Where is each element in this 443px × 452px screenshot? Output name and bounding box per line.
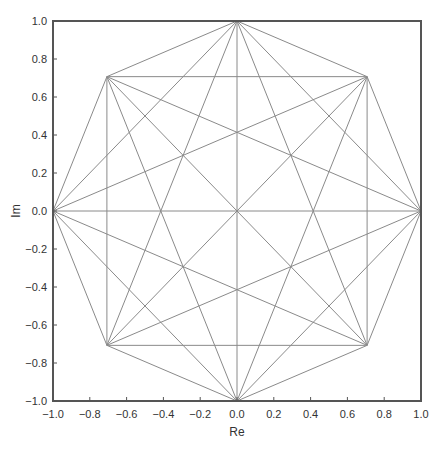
y-tick-label: 0.4 xyxy=(32,129,47,141)
chord-line xyxy=(107,211,421,345)
chord-line xyxy=(237,345,367,401)
y-tick-label: 0.8 xyxy=(32,53,47,65)
chart: −1.0−0.8−0.6−0.4−0.20.00.20.40.60.81.0 1… xyxy=(0,0,443,452)
chord-line xyxy=(107,21,237,77)
y-tick-label: −0.4 xyxy=(25,281,47,293)
y-axis-label: Im xyxy=(9,204,23,217)
chord-line xyxy=(107,77,237,401)
y-tick-label: 0.0 xyxy=(32,205,47,217)
x-tick-label: 1.0 xyxy=(413,408,428,420)
x-tick-label: −0.6 xyxy=(116,408,138,420)
chord-line xyxy=(107,345,237,401)
chord-line xyxy=(237,77,367,401)
x-tick-label: −0.2 xyxy=(189,408,211,420)
x-tick-label: −0.4 xyxy=(153,408,175,420)
chord-line xyxy=(237,21,367,77)
y-tick-label: −0.2 xyxy=(25,243,47,255)
x-tick-label: 0.6 xyxy=(340,408,355,420)
y-tick-label: −1.0 xyxy=(25,395,47,407)
x-tick-label: −0.8 xyxy=(79,408,101,420)
chord-line xyxy=(367,211,421,345)
y-tick-label: 1.0 xyxy=(32,15,47,27)
y-tick-label: 0.2 xyxy=(32,167,47,179)
x-tick-label: 0.2 xyxy=(266,408,281,420)
chord-lines xyxy=(53,21,421,401)
x-axis-label: Re xyxy=(229,425,245,439)
x-tick-label: 0.0 xyxy=(229,408,244,420)
x-tick-label: 0.4 xyxy=(303,408,318,420)
y-tick-label: −0.6 xyxy=(25,319,47,331)
chord-line xyxy=(53,77,107,211)
chord-line xyxy=(107,21,237,345)
chord-line xyxy=(53,77,367,211)
chord-line xyxy=(237,21,367,345)
chord-line xyxy=(107,77,421,211)
chord-line xyxy=(367,77,421,211)
x-tick-label: 0.8 xyxy=(377,408,392,420)
y-tick-label: 0.6 xyxy=(32,91,47,103)
chord-line xyxy=(53,211,367,345)
x-tick-label: −1.0 xyxy=(42,408,64,420)
y-tick-label: −0.8 xyxy=(25,357,47,369)
chord-line xyxy=(53,211,107,345)
